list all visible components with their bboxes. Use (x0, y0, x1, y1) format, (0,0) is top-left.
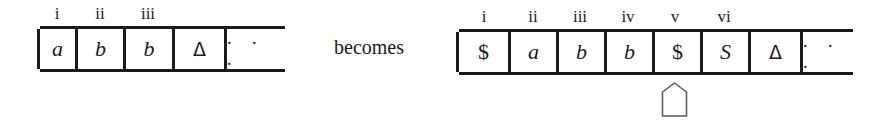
left-cell-1: a (37, 29, 75, 69)
right-cell-label-iii: iii (560, 8, 600, 25)
right-cell-1: $ (456, 32, 508, 72)
left-cell-3: b (123, 29, 172, 69)
left-cell-label-ii: ii (80, 5, 120, 22)
left-cell-label-i: i (37, 5, 77, 22)
right-cell-2: a (508, 32, 556, 72)
right-cell-3: b (556, 32, 604, 72)
left-tape: a b b Δ . . . (40, 26, 285, 72)
right-tape: $ a b b $ S Δ . . . (459, 29, 853, 75)
right-cell-4: b (604, 32, 652, 72)
right-cell-label-iv: iv (608, 8, 648, 25)
becomes-label: becomes (334, 36, 404, 59)
left-cell-4-blank: Δ (172, 29, 224, 69)
right-cell-7-blank: Δ (748, 32, 800, 72)
right-cell-6: S (700, 32, 748, 72)
tape-head-pointer-icon (660, 81, 690, 119)
left-cell-label-iii: iii (128, 5, 168, 22)
right-tape-ellipsis: . . . (800, 32, 853, 72)
left-cell-2: b (75, 29, 123, 69)
left-tape-ellipsis: . . . (224, 29, 285, 69)
right-cell-label-vi: vi (704, 8, 744, 25)
right-cell-label-v: v (655, 8, 695, 25)
right-cell-label-ii: ii (513, 8, 553, 25)
right-cell-5-head: $ (652, 32, 700, 72)
right-cell-label-i: i (464, 8, 504, 25)
